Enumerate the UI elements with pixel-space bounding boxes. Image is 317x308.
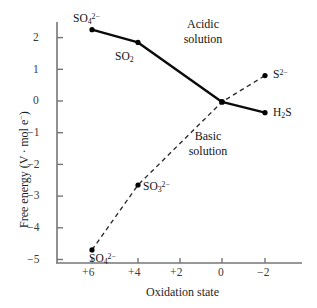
region-label-basic: Basic solution bbox=[179, 129, 237, 159]
point-label-sulfide: S2−S 2− bbox=[273, 68, 288, 80]
y-axis-ticks bbox=[57, 38, 63, 260]
point-label-sulfate-basic: SO42−SO4 2− bbox=[89, 252, 116, 266]
point-sulfate-acidic bbox=[89, 27, 94, 32]
point-label-sulfur-dioxide: SO2SO2 bbox=[115, 50, 134, 64]
x-tick-label-plus4: +4 bbox=[128, 266, 141, 278]
y-tick-label-0: 0 bbox=[33, 94, 39, 106]
point-label-sulfite-basic: SO32−SO3 2− bbox=[143, 180, 170, 194]
y-tick-label-1: 1 bbox=[33, 63, 39, 75]
x-tick-label-minus2: −2 bbox=[257, 266, 270, 278]
region-label-basic-line2: solution bbox=[179, 144, 237, 159]
x-tick-label-plus6: +6 bbox=[82, 266, 95, 278]
y-tick-label-2: 2 bbox=[33, 31, 39, 43]
basic-solution-curve bbox=[92, 76, 265, 250]
point-label-hydrogen-sulfide: H2SH2S bbox=[273, 106, 292, 120]
x-axis-title: Oxidation state bbox=[146, 286, 219, 299]
x-tick-label-plus2: +2 bbox=[170, 266, 183, 278]
point-sulfide bbox=[262, 73, 267, 78]
region-label-acidic-line1: Acidic bbox=[172, 17, 234, 32]
x-tick-label-zero: 0 bbox=[218, 266, 224, 278]
region-label-basic-line1: Basic bbox=[179, 129, 237, 144]
plot-area bbox=[0, 0, 317, 308]
region-label-acidic: Acidic solution bbox=[172, 17, 234, 47]
point-sulfite-basic bbox=[135, 182, 140, 187]
point-sulfur-zero bbox=[219, 99, 225, 105]
point-sulfur-dioxide bbox=[135, 40, 140, 45]
region-label-acidic-line2: solution bbox=[172, 32, 234, 47]
y-tick-label-neg5: −5 bbox=[27, 253, 40, 265]
point-hydrogen-sulfide bbox=[262, 110, 267, 115]
y-axis-title: Free energy (V · mol e−) Free energy (V … bbox=[18, 111, 31, 228]
frost-diagram-figure: 2 1 0 −1 −2 −3 −4 −5 +6 +4 +2 0 −2 Oxida… bbox=[0, 0, 317, 308]
point-label-sulfate-acidic: SO42−SO4 2− bbox=[73, 12, 100, 26]
